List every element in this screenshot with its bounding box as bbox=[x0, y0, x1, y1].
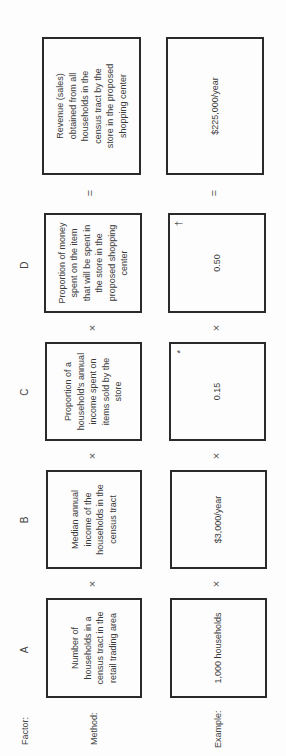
example-box-result: $225,000/year bbox=[166, 37, 264, 175]
example-c-value: 0.15 bbox=[211, 383, 224, 401]
multiply-sign: × bbox=[86, 321, 98, 335]
asterisk-footnote-mark: * bbox=[174, 350, 187, 354]
dagger-footnote-mark: † bbox=[173, 221, 186, 226]
example-box-d: 0.50 † bbox=[168, 213, 266, 313]
method-box-d: Proportion of money spent on the item th… bbox=[44, 213, 142, 313]
method-box-c: Proportion of a household's annual incom… bbox=[45, 342, 142, 441]
method-b-text: Median annual income of the households i… bbox=[69, 478, 119, 561]
multiply-sign: × bbox=[210, 577, 222, 591]
example-box-c: 0.15 * bbox=[169, 342, 266, 441]
method-box-result: Revenue (sales) obtained from all househ… bbox=[42, 37, 141, 175]
multiply-sign: × bbox=[210, 449, 222, 463]
multiply-sign: × bbox=[210, 321, 222, 335]
method-c-text: Proportion of a household's annual incom… bbox=[62, 350, 125, 433]
method-a-text: Number of households in a census tract i… bbox=[69, 606, 119, 690]
factor-row-label: Factor: bbox=[20, 717, 30, 745]
factor-c-label: C bbox=[19, 382, 30, 402]
revenue-estimation-diagram: Factor: Method: Example: A B C D Number … bbox=[0, 0, 286, 756]
factor-d-label: D bbox=[19, 255, 30, 275]
equals-sign: = bbox=[84, 186, 96, 200]
method-result-text: Revenue (sales) obtained from all househ… bbox=[54, 57, 129, 155]
multiply-sign: × bbox=[86, 449, 98, 463]
example-row-label: Example: bbox=[213, 710, 223, 748]
example-a-value: 1,000 households bbox=[212, 612, 225, 683]
method-box-b: Median annual income of the households i… bbox=[46, 470, 142, 569]
example-box-b: $3,000/year bbox=[170, 470, 267, 569]
factor-a-label: A bbox=[19, 640, 30, 660]
example-result-value: $225,000/year bbox=[209, 77, 222, 135]
method-box-a: Number of households in a census tract i… bbox=[46, 598, 142, 698]
example-b-value: $3,000/year bbox=[212, 496, 225, 544]
factor-b-label: B bbox=[19, 510, 30, 530]
method-row-label: Method: bbox=[89, 712, 99, 745]
equals-sign: = bbox=[208, 186, 220, 200]
example-box-a: 1,000 households bbox=[170, 598, 267, 698]
method-d-text: Proportion of money spent on the item th… bbox=[56, 221, 131, 305]
example-d-value: 0.50 bbox=[211, 254, 224, 272]
multiply-sign: × bbox=[86, 577, 98, 591]
